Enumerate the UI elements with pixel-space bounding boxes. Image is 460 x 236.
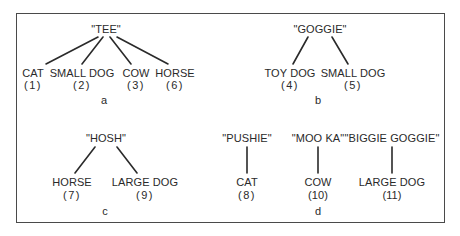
leaf-cow: COW [122,68,149,79]
leaf-small-dog: SMALL DOG [321,68,386,79]
edge-tee-horse [117,37,168,64]
root-hosh: "HOSH" [86,133,126,144]
edge-tee-cat [46,37,98,64]
edge-goggie-small-dog [332,37,348,64]
leaf-small-dog-number: (5) [344,80,362,91]
leaf-toy-dog: TOY DOG [264,68,315,79]
leaf-cat-number: (1) [24,80,42,91]
leaf-horse-number: (7) [63,190,81,201]
leaf-small-dog: SMALL DOG [50,68,115,79]
leaf-cat: CAT [22,68,43,79]
leaf-cow: COW [304,177,331,188]
panel-label-d: d [315,206,321,217]
leaf-small-dog-number: (2) [73,80,91,91]
leaf-large-dog: LARGE DOG [359,177,425,188]
leaf-large-dog-number: (11) [382,190,401,201]
leaf-cat: CAT [236,177,257,188]
panel-label-b: b [315,95,321,106]
root-mooka: "MOO KA" [292,133,345,144]
leaf-large-dog-number: (9) [136,190,154,201]
leaf-horse-number: (6) [166,80,184,91]
root-pushie: "PUSHIE" [222,133,272,144]
panel-label-c: c [102,206,108,217]
leaf-cow-number: (10) [308,190,328,201]
leaf-toy-dog-number: (4) [281,80,299,91]
leaf-horse: HORSE [52,177,92,188]
edge-hosh-horse [75,147,95,173]
root-biggie-goggie: "BIGGIE GOGGIE" [345,133,440,144]
edge-goggie-toy-dog [293,37,308,64]
root-tee: "TEE" [91,24,121,35]
edge-tee-small-dog [82,37,103,64]
leaf-cow-number: (3) [127,80,145,91]
edge-tee-cow [110,37,131,64]
tree-edges [0,0,460,236]
edge-hosh-large-dog [117,147,137,173]
panel-label-a: a [101,95,107,106]
leaf-horse: HORSE [155,68,195,79]
root-goggie: "GOGGIE" [293,24,346,35]
leaf-large-dog: LARGE DOG [112,177,178,188]
leaf-cat-number: (8) [238,190,256,201]
